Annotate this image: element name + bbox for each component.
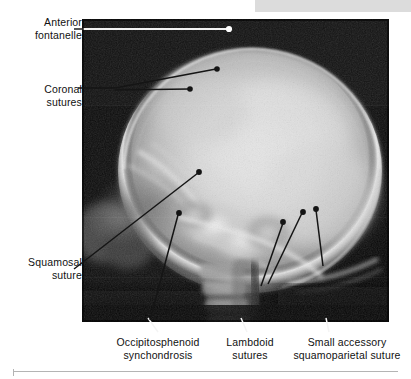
label-small-accessory-squamoparietal-suture: Small accessory squamoparietal suture — [284, 336, 410, 361]
label-anterior-fontanelle-line2: fontanelle — [10, 29, 82, 42]
label-occipitosphenoid-synchondrosis: Occipitosphenoid synchondrosis — [96, 336, 220, 361]
label-squamosal-suture-line1: Squamosal — [4, 256, 82, 269]
label-coronal-sutures-line2: sutures — [8, 96, 82, 109]
label-occipitosphenoid-synchondrosis-line2: synchondrosis — [96, 349, 220, 362]
label-squamosal-suture-line2: suture — [4, 269, 82, 282]
leader-lambdoid-sutures — [241, 209, 306, 332]
leader-coronal-sutures — [78, 66, 220, 92]
label-anterior-fontanelle: Anterior fontanelle — [10, 16, 82, 41]
label-lambdoid-sutures-line1: Lambdoid — [212, 336, 288, 349]
label-occipitosphenoid-synchondrosis-line1: Occipitosphenoid — [96, 336, 220, 349]
leader-anterior-fontanelle — [74, 26, 232, 32]
label-small-accessory-squamoparietal-suture-line2: squamoparietal suture — [284, 349, 410, 362]
label-coronal-sutures: Coronal sutures — [8, 83, 82, 108]
label-lambdoid-sutures-line2: sutures — [212, 349, 288, 362]
label-squamosal-suture: Squamosal suture — [4, 256, 82, 281]
leader-occipitosphenoid-synchondrosis — [148, 210, 182, 332]
bottom-rule — [13, 371, 398, 372]
leader-small-accessory-squamoparietal-suture — [313, 206, 329, 332]
leader-line-overlay — [0, 0, 411, 379]
label-coronal-sutures-line1: Coronal — [8, 83, 82, 96]
label-small-accessory-squamoparietal-suture-line1: Small accessory — [284, 336, 410, 349]
label-anterior-fontanelle-line1: Anterior — [10, 16, 82, 29]
figure-root: Anterior fontanelle Coronal sutures Squa… — [0, 0, 411, 379]
label-lambdoid-sutures: Lambdoid sutures — [212, 336, 288, 361]
leader-squamosal-suture — [74, 169, 202, 269]
